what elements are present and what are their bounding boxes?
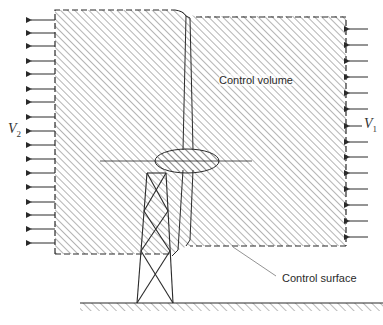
control-volume-label: Control volume: [219, 74, 293, 86]
velocity-symbol: V: [364, 116, 373, 131]
ground: [80, 303, 383, 311]
control-surface-leader-line: [233, 247, 276, 276]
upstream-velocity-label: V1: [364, 116, 377, 134]
control-volume-region: [55, 10, 346, 254]
velocity-subscript: 2: [17, 129, 22, 139]
downstream-velocity-arrows: [31, 20, 55, 243]
control-surface-label: Control surface: [282, 272, 357, 284]
velocity-subscript: 1: [373, 124, 378, 134]
velocity-symbol: V: [8, 121, 17, 136]
downstream-velocity-label: V2: [8, 121, 21, 139]
